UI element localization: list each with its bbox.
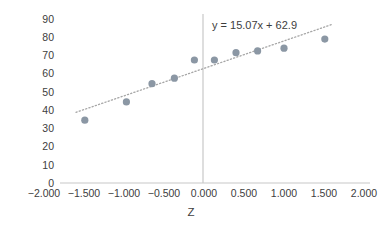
data-point <box>280 45 287 52</box>
data-point <box>254 47 261 54</box>
data-points <box>81 35 328 123</box>
trendline-equation-label: y = 15.07x + 62.9 <box>212 19 297 31</box>
trendline-path <box>76 24 332 112</box>
data-point <box>232 49 239 56</box>
data-point <box>171 75 178 82</box>
x-axis-title: Z <box>0 206 382 218</box>
data-point <box>321 35 328 42</box>
scatter-chart: Time to failure 9080706050403020100 −2.0… <box>0 0 382 231</box>
data-point <box>191 56 198 63</box>
trendline <box>76 24 332 112</box>
plot-area <box>0 0 382 231</box>
data-point <box>81 117 88 124</box>
data-point <box>123 98 130 105</box>
data-point <box>211 56 218 63</box>
data-point <box>148 80 155 87</box>
